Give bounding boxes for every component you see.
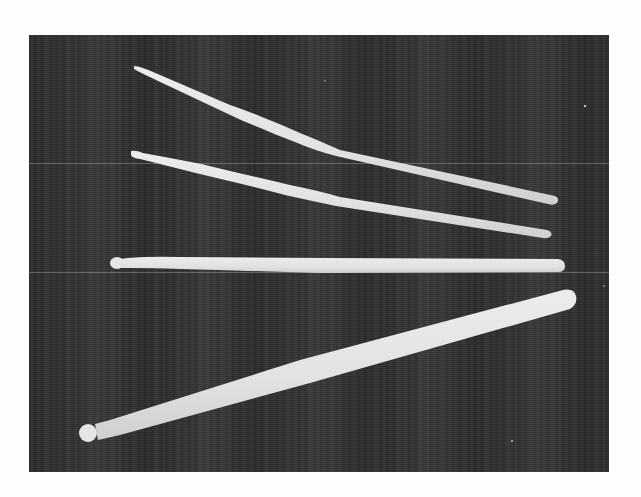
drumstick-4 bbox=[79, 290, 576, 442]
drumstick-1 bbox=[134, 66, 558, 205]
drumstick-2 bbox=[131, 151, 552, 239]
drumstick-3 bbox=[110, 257, 565, 273]
drumsticks bbox=[0, 0, 641, 497]
photo-stage bbox=[0, 0, 641, 497]
